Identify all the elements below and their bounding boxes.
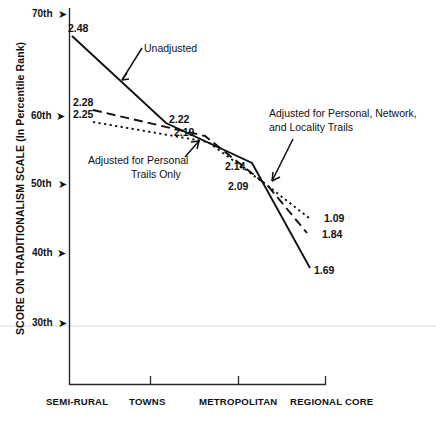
data-label-2-25: 2.25	[73, 108, 94, 120]
data-value-labels: 2.48 2.28 2.25 2.22 2.19 2.14 2.09 1.09 …	[68, 22, 345, 276]
annotation-pnl-line2: and Locality Trails	[269, 121, 353, 133]
data-label-1-84: 1.84	[322, 228, 343, 240]
leader-line-personal-only	[185, 141, 199, 157]
annotation-personal-only-line2: Trails Only	[131, 168, 182, 180]
series-group	[72, 36, 310, 268]
y-tick-arrow-70th: ➤	[58, 8, 67, 20]
data-label-2-48: 2.48	[68, 22, 89, 34]
x-tick-label-towns: TOWNS	[129, 396, 166, 407]
annotations: Unadjusted Adjusted for Personal Trails …	[88, 42, 417, 181]
y-tick-label-50th: 50th	[31, 178, 52, 189]
annotation-pnl-line1: Adjusted for Personal, Network,	[269, 107, 417, 119]
y-axis-title: SCORE ON TRADITIONALISM SCALE (In Percen…	[14, 42, 26, 335]
traditionalism-line-chart: SCORE ON TRADITIONALISM SCALE (In Percen…	[0, 0, 436, 422]
data-label-2-09: 2.09	[228, 180, 249, 192]
annotation-personal-only-line1: Adjusted for Personal	[88, 154, 188, 166]
y-tick-label-70th: 70th	[32, 8, 53, 19]
data-label-1-09: 1.09	[324, 212, 345, 224]
y-tick-arrow-30th: ➤	[58, 317, 67, 329]
data-label-2-14: 2.14	[225, 160, 246, 172]
annotation-unadjusted: Unadjusted	[144, 42, 197, 54]
x-tick-label-metropolitan: METROPOLITAN	[199, 396, 277, 407]
series-line-unadjusted	[72, 36, 310, 268]
leader-line-pnl	[272, 139, 293, 181]
leader-arrow-unadjusted	[122, 73, 129, 80]
y-tick-arrow-60th: ➤	[56, 110, 65, 122]
y-tick-labels: 70th ➤ 60th ➤ 50th ➤ 40th ➤ 30th ➤	[31, 8, 67, 329]
data-label-2-19: 2.19	[174, 126, 195, 138]
data-label-2-22: 2.22	[169, 113, 190, 125]
axes	[70, 8, 327, 385]
data-label-2-28: 2.28	[73, 96, 94, 108]
series-line-personal-network-locality	[93, 122, 309, 218]
data-label-1-69: 1.69	[314, 264, 335, 276]
y-tick-arrow-50th: ➤	[58, 178, 67, 190]
x-tick-label-semi-rural: SEMI-RURAL	[46, 396, 108, 407]
x-tick-labels: SEMI-RURAL TOWNS METROPOLITAN REGIONAL C…	[46, 396, 374, 407]
y-tick-label-40th: 40th	[32, 247, 53, 258]
x-tick-label-regional-core: REGIONAL CORE	[290, 396, 374, 407]
y-tick-arrow-40th: ➤	[57, 247, 66, 259]
chart-canvas: SCORE ON TRADITIONALISM SCALE (In Percen…	[0, 0, 436, 422]
y-tick-label-30th: 30th	[32, 317, 53, 328]
y-tick-label-60th: 60th	[31, 110, 52, 121]
